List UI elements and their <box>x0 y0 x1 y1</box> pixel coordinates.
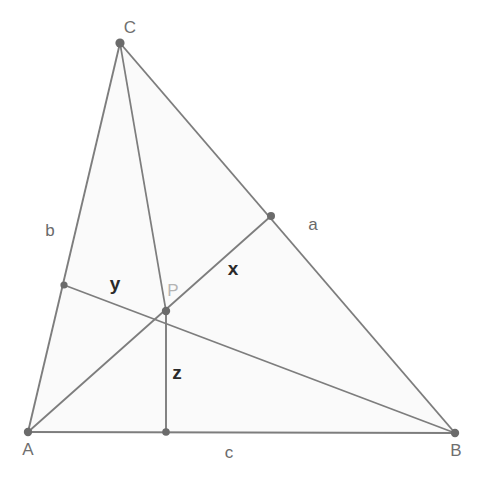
vertex-label-c: C <box>124 19 136 36</box>
foot-dot-on-side-c <box>162 428 170 436</box>
interior-point-label-p: P <box>167 282 178 299</box>
side-label-c: c <box>225 444 234 461</box>
foot-dot-on-side-b <box>60 281 67 288</box>
vertex-label-b: B <box>450 442 461 459</box>
segment-label-y: y <box>110 274 121 293</box>
geometry-canvas <box>0 0 484 488</box>
segment-label-x: x <box>228 259 239 278</box>
side-label-a: a <box>308 216 317 233</box>
interior-point-dot-p <box>162 307 170 315</box>
vertex-dot-a <box>24 428 32 436</box>
vertex-label-a: A <box>22 441 33 458</box>
vertex-dot-b <box>451 429 459 437</box>
triangle-side-c <box>28 432 455 433</box>
segment-label-z: z <box>172 363 182 382</box>
vertex-dot-c <box>115 38 124 47</box>
geometry-figure: A B C P a b c x y z <box>0 0 484 488</box>
foot-dot-on-side-a <box>267 212 275 220</box>
side-label-b: b <box>45 222 54 239</box>
